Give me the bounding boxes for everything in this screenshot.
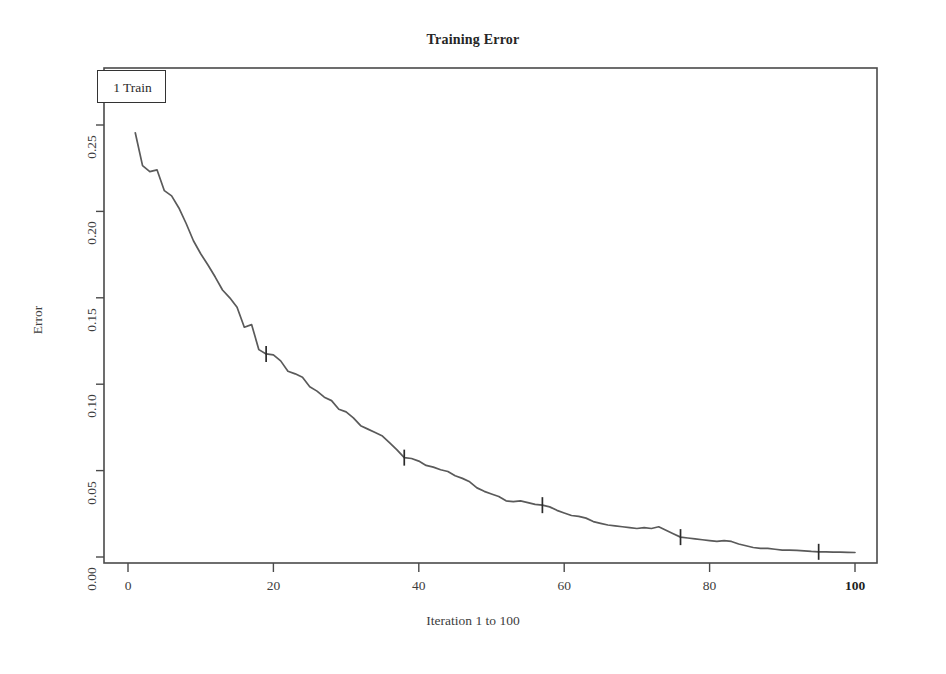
y-axis-label-wrap: Error	[28, 290, 48, 350]
x-tick-label: 20	[243, 578, 303, 594]
y-tick-label: 0.15	[48, 290, 92, 306]
y-tick-text: 0.10	[84, 384, 100, 428]
y-tick-label: 0.00	[48, 549, 92, 565]
y-tick-label: 0.05	[48, 463, 92, 479]
series-markers-train	[266, 346, 819, 560]
x-tick-label: 100	[825, 578, 885, 594]
y-tick-label: 0.10	[48, 376, 92, 392]
x-axis-ticks	[128, 563, 855, 572]
y-tick-text: 0.15	[84, 298, 100, 342]
y-tick-label: 0.20	[48, 203, 92, 219]
y-axis-label: Error	[30, 292, 46, 348]
y-tick-text: 0.20	[84, 211, 100, 255]
legend-item-train: 1 Train	[98, 71, 167, 104]
x-tick-label: 80	[680, 578, 740, 594]
x-axis-label: Iteration 1 to 100	[0, 613, 946, 629]
legend: 1 Train	[97, 70, 166, 103]
x-tick-label: 60	[534, 578, 594, 594]
y-tick-text: 0.05	[84, 471, 100, 515]
x-tick-label: 40	[389, 578, 449, 594]
x-tick-label: 0	[98, 578, 158, 594]
plot-frame	[104, 68, 877, 563]
y-tick-label: 0.25	[48, 117, 92, 133]
series-line-train	[135, 133, 855, 553]
y-tick-text: 0.25	[84, 125, 100, 169]
chart-canvas: Training Error Error Iteration 1 to 100 …	[0, 0, 946, 674]
